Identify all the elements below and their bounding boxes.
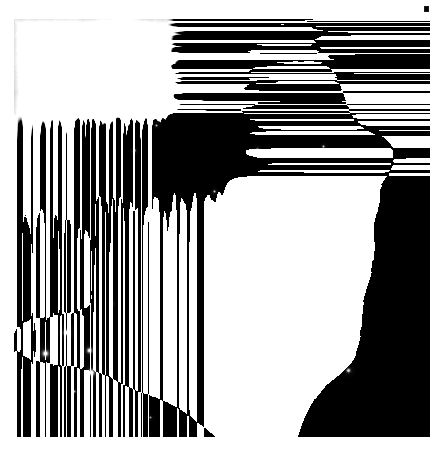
nebula-image[interactable] <box>14 19 430 437</box>
corner-marker-icon <box>423 5 430 13</box>
image-viewer-root <box>0 0 446 460</box>
nebula-image-frame[interactable] <box>14 19 430 437</box>
